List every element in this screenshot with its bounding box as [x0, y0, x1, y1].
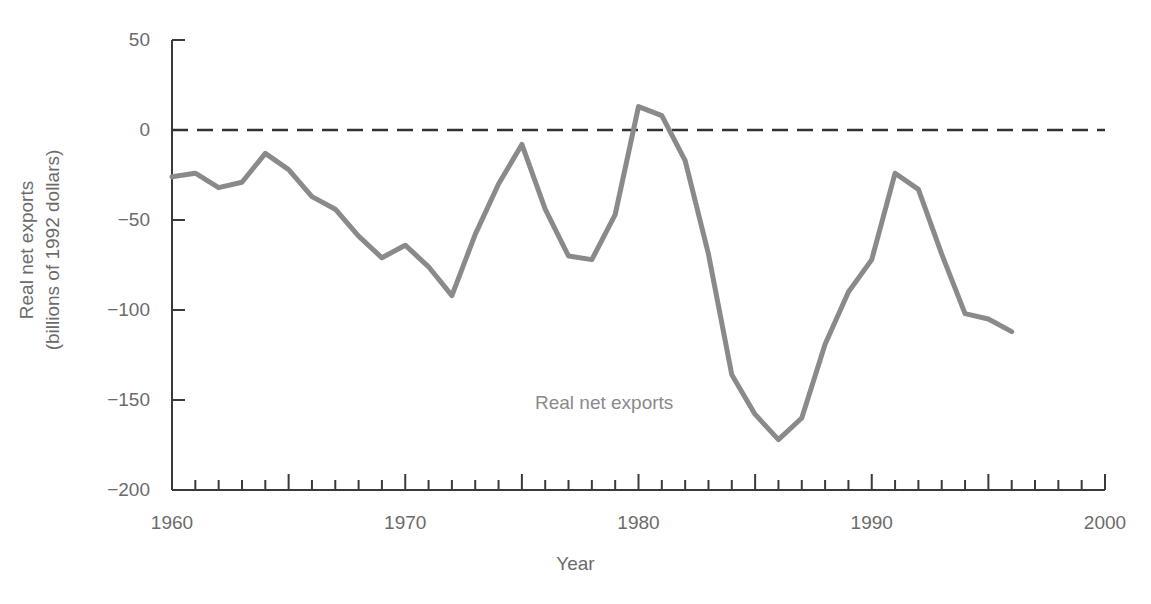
x-axis-title: Year — [0, 553, 1151, 575]
x-tick-label: 1960 — [151, 512, 193, 534]
y-tick-label: 0 — [40, 119, 150, 141]
chart-figure: Real net exports (billions of 1992 dolla… — [0, 0, 1151, 604]
series-line-real-net-exports — [172, 107, 1012, 440]
y-tick-label: −150 — [40, 389, 150, 411]
x-tick-label: 1980 — [617, 512, 659, 534]
x-tick-label: 1990 — [851, 512, 893, 534]
series-annotation-label: Real net exports — [535, 392, 673, 414]
x-tick-label: 2000 — [1084, 512, 1126, 534]
y-axis-title-line-1: Real net exports — [14, 70, 40, 430]
y-tick-label: −200 — [40, 479, 150, 501]
data-series-group — [172, 107, 1012, 440]
y-tick-label: 50 — [40, 29, 150, 51]
x-tick-label: 1970 — [384, 512, 426, 534]
y-tick-label: −50 — [40, 209, 150, 231]
y-tick-label: −100 — [40, 299, 150, 321]
